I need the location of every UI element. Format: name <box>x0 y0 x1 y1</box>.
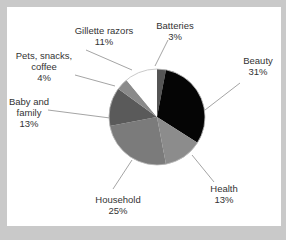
leader-line <box>113 160 132 189</box>
label-baby-line2: family <box>9 107 49 118</box>
leader-line <box>155 40 168 66</box>
label-gillette-name: Gillette razors <box>75 25 134 36</box>
label-pets-pct: 4% <box>16 72 73 83</box>
label-household-pct: 25% <box>95 205 140 216</box>
label-household: Household 25% <box>95 194 140 216</box>
label-batteries: Batteries 3% <box>156 20 194 42</box>
label-baby: Baby and family 13% <box>9 96 49 129</box>
label-batteries-name: Batteries <box>156 20 194 31</box>
label-baby-line1: Baby and <box>9 96 49 107</box>
leader-line <box>48 110 110 118</box>
label-health: Health 13% <box>210 183 237 205</box>
label-gillette-pct: 11% <box>75 36 134 47</box>
leader-line <box>75 75 115 86</box>
label-beauty-pct: 31% <box>243 66 273 77</box>
leader-line <box>86 50 132 70</box>
label-pets: Pets, snacks, coffee 4% <box>16 50 73 83</box>
label-pets-line2: coffee <box>16 61 73 72</box>
label-baby-pct: 13% <box>9 118 49 129</box>
label-batteries-pct: 3% <box>156 31 194 42</box>
label-health-name: Health <box>210 183 237 194</box>
label-beauty-name: Beauty <box>243 55 273 66</box>
leader-line <box>205 83 240 110</box>
label-health-pct: 13% <box>210 194 237 205</box>
label-beauty: Beauty 31% <box>243 55 273 77</box>
leader-line <box>192 155 214 182</box>
label-household-name: Household <box>95 194 140 205</box>
label-gillette: Gillette razors 11% <box>75 25 134 47</box>
label-pets-line1: Pets, snacks, <box>16 50 73 61</box>
